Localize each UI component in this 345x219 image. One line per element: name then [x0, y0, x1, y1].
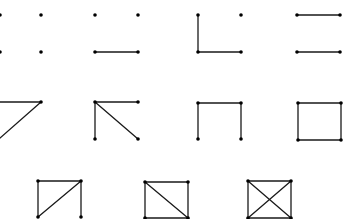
graph-edge [0, 102, 41, 138]
graph-vertex [93, 50, 97, 54]
graph-vertex [296, 138, 300, 142]
graph-vertex [136, 137, 140, 141]
graph-vertex [239, 137, 243, 141]
graph-vertex [186, 180, 190, 184]
graph-g10 [143, 180, 190, 219]
graph-g4 [295, 13, 342, 54]
graph-edge [95, 102, 138, 139]
graph-vertex [136, 100, 140, 104]
graph-vertex [295, 50, 299, 54]
graph-vertex [93, 13, 97, 17]
graph-vertex [39, 13, 43, 17]
graph-vertex [339, 101, 343, 105]
graph-diagram-canvas [0, 0, 345, 219]
graph-vertex [143, 180, 147, 184]
graph-g1 [0, 13, 43, 54]
graph-vertex [79, 215, 83, 219]
graph-vertex [239, 50, 243, 54]
graph-vertex [295, 13, 299, 17]
graph-vertex [239, 13, 243, 17]
graph-vertex [296, 101, 300, 105]
graph-vertex [136, 13, 140, 17]
graph-g2 [93, 13, 140, 54]
graph-vertex [196, 50, 200, 54]
graph-g11 [246, 179, 293, 219]
graph-g3 [196, 13, 243, 54]
graph-g9 [36, 179, 83, 219]
graph-vertex [0, 50, 2, 54]
graph-vertex [196, 13, 200, 17]
graph-edge [145, 182, 188, 218]
graph-vertex [338, 50, 342, 54]
graph-vertex [339, 138, 343, 142]
graph-g5 [0, 100, 43, 138]
graph-vertex [289, 179, 293, 183]
graph-edge [38, 181, 81, 217]
graph-vertex [143, 216, 147, 219]
graph-vertex [239, 101, 243, 105]
graph-vertex [39, 50, 43, 54]
graph-vertex [136, 50, 140, 54]
graph-vertex [246, 179, 250, 183]
graph-vertex [196, 101, 200, 105]
graph-vertex [196, 137, 200, 141]
graph-vertex [36, 179, 40, 183]
graph-vertex [93, 100, 97, 104]
graph-g7 [196, 101, 243, 141]
graph-vertex [79, 179, 83, 183]
graph-vertex [39, 100, 43, 104]
graph-g6 [93, 100, 140, 141]
graph-vertex [0, 13, 2, 17]
graph-vertex [93, 137, 97, 141]
graph-g8 [296, 101, 343, 142]
graph-vertex [338, 13, 342, 17]
graph-vertex [36, 215, 40, 219]
